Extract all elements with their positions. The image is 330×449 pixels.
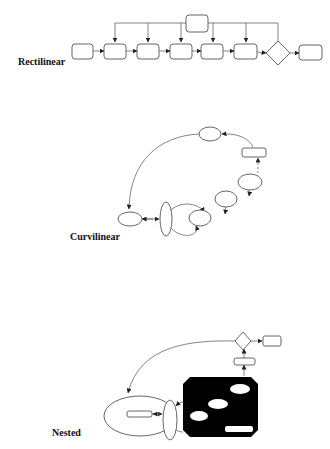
ellipse-node-top[interactable] xyxy=(199,127,221,141)
tall-ellipse-node[interactable] xyxy=(163,400,177,440)
decision-diamond[interactable] xyxy=(235,332,251,350)
decision-diamond[interactable] xyxy=(266,41,290,65)
rect-node[interactable] xyxy=(242,148,266,157)
rectilinear-label: Rectilinear xyxy=(18,56,66,67)
ellipse-node[interactable] xyxy=(238,174,262,190)
tall-ellipse-node[interactable] xyxy=(160,202,172,236)
rect-node-6[interactable] xyxy=(234,44,257,59)
ellipse-node[interactable] xyxy=(215,191,237,207)
ellipse-node-left[interactable] xyxy=(118,212,142,226)
connector xyxy=(176,430,183,432)
curve-connector xyxy=(129,134,199,209)
rect-node-3[interactable] xyxy=(137,44,159,59)
inner-rect[interactable] xyxy=(225,426,253,432)
rect-node-7[interactable] xyxy=(299,45,322,60)
arrow xyxy=(257,52,266,53)
inner-rect[interactable] xyxy=(127,411,152,417)
nested-label: Nested xyxy=(52,427,81,438)
output-rect[interactable] xyxy=(263,336,281,346)
rect-node-4[interactable] xyxy=(170,44,192,59)
rect-node-2[interactable] xyxy=(104,44,126,59)
rect-node-1[interactable] xyxy=(72,44,93,59)
inner-ellipse[interactable] xyxy=(230,384,250,394)
ellipse-node[interactable] xyxy=(189,210,211,226)
curvilinear-label: Curvilinear xyxy=(70,231,121,242)
curve-connector xyxy=(222,134,253,147)
rectilinear-section: Rectilinear xyxy=(18,15,322,67)
curvilinear-section: Curvilinear xyxy=(70,127,266,242)
rect-node-top[interactable] xyxy=(186,15,208,32)
curve-connector xyxy=(171,226,197,235)
arrow xyxy=(176,402,183,406)
small-rect[interactable] xyxy=(234,358,255,365)
rect-node-5[interactable] xyxy=(201,44,223,59)
nested-section: Nested xyxy=(52,332,281,440)
diagram-canvas: Rectilinear Curvilinear xyxy=(0,0,330,449)
inner-ellipse[interactable] xyxy=(190,411,208,421)
inner-ellipse[interactable] xyxy=(208,399,228,409)
